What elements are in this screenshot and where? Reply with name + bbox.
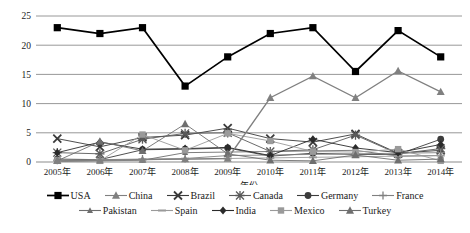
legend-marker-china-icon [105, 189, 127, 202]
marker-square [352, 68, 359, 75]
x-axis-tick-label: 2007年 [129, 166, 156, 177]
legend-label: Canada [253, 189, 283, 202]
marker-square [54, 192, 61, 199]
y-axis-tick-label: 25 [22, 11, 32, 21]
x-axis-title: 年份 [240, 180, 258, 185]
legend-item-usa[interactable]: USA [47, 188, 91, 203]
x-axis-tick-label: 2010年 [257, 166, 284, 177]
marker-square [182, 147, 188, 153]
legend-row: PakistanSpainIndiaMexicoTurkey [0, 203, 470, 218]
legend-label: USA [71, 189, 91, 202]
legend-label: Germany [321, 189, 358, 202]
marker-triangle [352, 94, 360, 101]
y-axis-tick-label: 20 [22, 41, 32, 51]
marker-square [182, 82, 189, 89]
legend-label: China [129, 189, 153, 202]
legend-item-pakistan[interactable]: Pakistan [79, 203, 137, 218]
x-axis-tick-label: 2008年 [172, 166, 199, 177]
plot-svg: 05101520252005年2006年2007年2008年2009年2010年… [0, 0, 470, 185]
series-line [57, 128, 440, 153]
marker-x [53, 135, 61, 143]
marker-star [351, 131, 360, 140]
marker-triangle [309, 72, 317, 79]
marker-square [310, 148, 316, 154]
legend-item-spain[interactable]: Spain [151, 203, 198, 218]
marker-square [267, 138, 273, 144]
x-axis-tick-label: 2011年 [300, 166, 327, 177]
marker-square [309, 24, 316, 31]
marker-square [224, 53, 231, 60]
legend-label: India [236, 204, 257, 217]
legend-marker-mexico-icon [270, 204, 292, 217]
marker-square [267, 30, 274, 37]
x-axis-tick-label: 2012年 [342, 166, 369, 177]
legend-item-france[interactable]: France [372, 188, 423, 203]
legend-label: Spain [175, 204, 198, 217]
x-axis-tick-label: 2013年 [385, 166, 412, 177]
legend-item-turkey[interactable]: Turkey [339, 203, 392, 218]
marker-triangle [266, 94, 274, 101]
marker-square [437, 53, 444, 60]
legend-item-china[interactable]: China [105, 188, 153, 203]
chart-legend: USAChinaBrazilCanadaGermanyFrancePakista… [0, 188, 470, 233]
marker-circle [305, 192, 312, 199]
legend-marker-germany-icon [297, 189, 319, 202]
y-axis-tick-label: 0 [26, 157, 31, 167]
legend-marker-usa-icon [47, 189, 69, 202]
series-line [57, 28, 440, 86]
marker-star [181, 129, 190, 138]
y-axis-tick-label: 5 [26, 128, 31, 138]
legend-item-mexico[interactable]: Mexico [270, 203, 325, 218]
x-axis-tick-label: 2006年 [86, 166, 113, 177]
legend-marker-canada-icon [229, 189, 251, 202]
line-chart: 05101520252005年2006年2007年2008年2009年2010年… [0, 0, 470, 233]
x-axis-tick-label: 2014年 [427, 166, 454, 177]
marker-triangle [96, 137, 104, 144]
legend-marker-india-icon [212, 204, 234, 217]
legend-row: USAChinaBrazilCanadaGermanyFrance [0, 188, 470, 203]
legend-marker-turkey-icon [339, 204, 361, 217]
plot-area: 05101520252005年2006年2007年2008年2009年2010年… [0, 0, 470, 185]
legend-label: Mexico [294, 204, 325, 217]
legend-label: Turkey [363, 204, 392, 217]
marker-diamond [219, 207, 226, 215]
marker-square [139, 24, 146, 31]
marker-square [96, 30, 103, 37]
legend-item-canada[interactable]: Canada [229, 188, 283, 203]
y-axis-tick-label: 15 [22, 70, 32, 80]
marker-star [235, 191, 244, 200]
marker-square [225, 130, 231, 136]
legend-marker-pakistan-icon [79, 204, 101, 217]
legend-item-germany[interactable]: Germany [297, 188, 358, 203]
marker-square [139, 131, 145, 137]
legend-marker-spain-icon [151, 204, 173, 217]
marker-square [54, 24, 61, 31]
marker-triangle [394, 67, 402, 74]
series-usa [54, 24, 445, 90]
y-axis-tick-label: 10 [22, 99, 32, 109]
marker-square [395, 27, 402, 34]
legend-item-india[interactable]: India [212, 203, 257, 218]
legend-label: Pakistan [103, 204, 137, 217]
marker-plus [379, 192, 387, 200]
legend-label: Brazil [191, 189, 215, 202]
marker-square [395, 146, 401, 152]
x-axis-tick-label: 2005年 [44, 166, 71, 177]
marker-square [278, 207, 284, 213]
marker-triangle [181, 120, 189, 127]
legend-item-brazil[interactable]: Brazil [167, 188, 215, 203]
marker-triangle [437, 88, 445, 95]
legend-marker-france-icon [372, 189, 394, 202]
legend-marker-brazil-icon [167, 189, 189, 202]
legend-label: France [396, 189, 423, 202]
x-axis-tick-label: 2009年 [214, 166, 241, 177]
